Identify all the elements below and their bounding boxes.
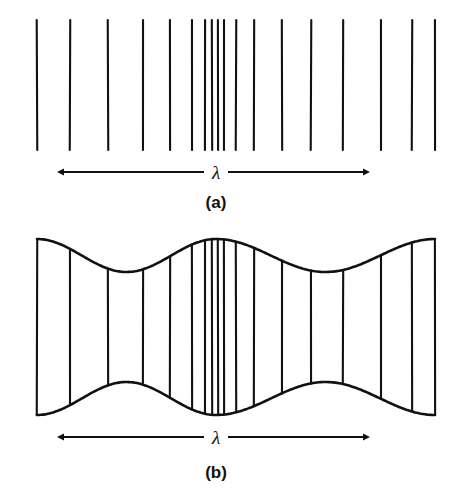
lambda-arrow-head-right xyxy=(363,169,370,176)
wavefront-line xyxy=(311,20,312,150)
panel-b-lambda-symbol: λ xyxy=(211,427,220,448)
panel-a-caption: (a) xyxy=(206,193,227,212)
lambda-arrow-head-left xyxy=(57,434,64,441)
panel-a-wavefront-group xyxy=(37,20,435,150)
panel-b: λ (b) xyxy=(37,239,435,482)
wave-diagram-svg: λ (a) λ (b) xyxy=(0,0,465,503)
wavefront-line xyxy=(37,20,38,150)
wavefront-line xyxy=(108,20,109,150)
lambda-arrow-head-left xyxy=(57,169,64,176)
panel-b-wavefront-group xyxy=(37,239,435,415)
wavefront-line xyxy=(236,20,237,150)
lambda-arrow-head-right xyxy=(363,434,370,441)
wave-diagram-figure: λ (a) λ (b) xyxy=(0,0,465,503)
panel-b-caption: (b) xyxy=(205,463,227,482)
panel-a: λ (a) xyxy=(37,20,435,212)
panel-a-lambda-symbol: λ xyxy=(211,162,220,183)
